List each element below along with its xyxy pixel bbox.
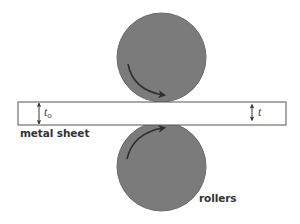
bottom-roller: [117, 122, 206, 211]
top-roller: [117, 13, 206, 102]
final-thickness-label: t: [258, 105, 261, 120]
initial-thickness-label: to: [44, 105, 52, 120]
metal-sheet: [18, 102, 286, 125]
rollers-label: rollers: [199, 192, 236, 204]
metal-sheet-label: metal sheet: [20, 127, 89, 139]
initial-thickness-subscript: o: [47, 111, 51, 120]
